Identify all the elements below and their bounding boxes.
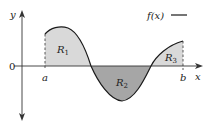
x-axis-label: x [195, 71, 201, 82]
area-chart: y x 0 a b R1 R2 R3 f(x) [0, 0, 213, 131]
y-axis-label: y [9, 9, 16, 20]
legend-label: f(x) [146, 10, 164, 21]
tick-a-label: a [42, 72, 48, 83]
origin-label: 0 [9, 61, 15, 72]
tick-b-label: b [180, 72, 186, 83]
